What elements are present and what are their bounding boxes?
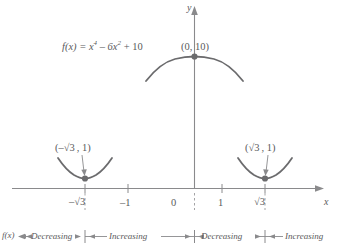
xtick-label-neg-sqrt3: –√3 <box>69 197 85 208</box>
monotonicity-label-1: Decreasing <box>31 232 72 241</box>
mono-seg3-arrow-r <box>255 234 261 239</box>
x-axis-label: x <box>324 197 328 207</box>
leader-min-right <box>266 155 268 172</box>
monotonicity-label-2: Increasing <box>109 232 147 241</box>
fn-prefix: f(x) = x <box>62 41 94 52</box>
point-min-right <box>262 175 268 181</box>
function-graph-figure <box>0 0 338 249</box>
leader-min-left <box>82 155 84 172</box>
mono-seg4-arrow-l <box>269 234 275 239</box>
leader-min-left-arrow <box>81 169 87 176</box>
fn-mid: – 6x <box>97 41 117 52</box>
monotonicity-label-4: Increasing <box>285 232 323 241</box>
xtick-label-neg-one: –1 <box>120 198 131 209</box>
point-min-left <box>82 175 88 181</box>
function-expression-label: f(x) = x4 – 6x2 + 10 <box>62 40 143 52</box>
local-max-annotation: (0, 10) <box>181 42 209 53</box>
mono-seg2-arrow-l <box>89 234 95 239</box>
leader-min-right-arrow <box>263 169 269 176</box>
xtick-label-zero: 0 <box>171 198 176 209</box>
y-axis-label: y <box>187 3 191 13</box>
local-min-left-annotation: (–√3 , 1) <box>55 143 91 154</box>
monotonicity-label-3: Decreasing <box>201 232 242 241</box>
fn-suffix: + 10 <box>121 41 143 52</box>
xtick-label-pos-sqrt3: √3 <box>254 197 265 208</box>
point-local-max <box>191 53 197 59</box>
local-min-right-annotation: (√3 , 1) <box>245 143 276 154</box>
mono-seg2-arrow-r <box>185 234 191 239</box>
y-axis-arrow <box>191 6 198 15</box>
x-axis-arrow <box>315 185 324 192</box>
xtick-label-one: 1 <box>218 198 223 209</box>
fx-row-label: f(x) <box>2 231 15 240</box>
fx-text: f(x) <box>2 230 15 240</box>
